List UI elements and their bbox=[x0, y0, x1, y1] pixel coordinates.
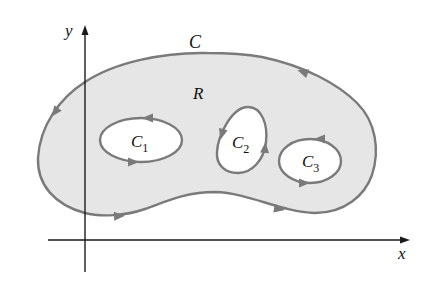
region-label: R bbox=[192, 84, 204, 103]
curve-subscript: 3 bbox=[313, 161, 319, 175]
curve-subscript: 1 bbox=[142, 141, 148, 155]
y-axis-arrow-icon bbox=[82, 25, 89, 35]
outer-curve-label: C bbox=[189, 32, 202, 52]
diagram-canvas: y x C R C1 C2 C3 bbox=[0, 0, 438, 287]
x-axis-label: x bbox=[397, 244, 406, 263]
outer-curve-c bbox=[38, 53, 376, 215]
x-axis-arrow-icon bbox=[400, 237, 410, 244]
curve-letter: C bbox=[232, 133, 244, 152]
y-axis-label: y bbox=[63, 21, 73, 40]
curve-letter: C bbox=[131, 132, 143, 151]
curve-letter: C bbox=[302, 152, 314, 171]
curve-subscript: 2 bbox=[243, 142, 249, 156]
region-diagram: y x C R C1 C2 C3 bbox=[0, 0, 438, 287]
